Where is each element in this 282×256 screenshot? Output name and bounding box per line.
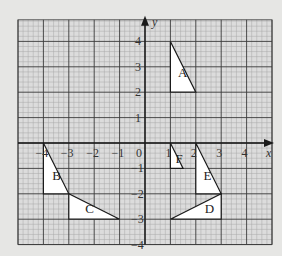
triangle-label-c: C [85, 201, 94, 216]
y-tick-label: 1 [135, 111, 141, 125]
y-tick-label: 4 [135, 34, 141, 48]
triangle-label-a: A [178, 65, 188, 80]
x-tick-label: −1 [112, 146, 125, 160]
triangle-label-e: E [203, 168, 211, 183]
x-tick-label: −2 [86, 146, 99, 160]
coordinate-grid-diagram: ABCDEFxy−4−3−2−112344321−1−2−3−40 [0, 0, 282, 256]
x-tick-label: 2 [191, 146, 197, 160]
x-axis-label: x [265, 146, 272, 160]
y-tick-label: −4 [131, 238, 144, 252]
grid-plot: ABCDEFxy−4−3−2−112344321−1−2−3−40 [0, 0, 282, 256]
x-tick-label: −3 [61, 146, 74, 160]
y-tick-label: −2 [131, 187, 144, 201]
x-tick-label: −4 [35, 146, 48, 160]
y-tick-label: −1 [131, 161, 144, 175]
y-tick-label: 3 [135, 60, 141, 74]
triangle-label-d: D [205, 201, 214, 216]
triangle-label-f: F [175, 151, 182, 166]
y-axis-label: y [151, 15, 158, 29]
x-tick-label: 1 [165, 146, 171, 160]
x-tick-label: 3 [216, 146, 222, 160]
y-tick-label: −3 [131, 212, 144, 226]
x-tick-label: 4 [242, 146, 248, 160]
y-tick-label: 2 [135, 85, 141, 99]
origin-label: 0 [136, 146, 142, 160]
triangle-label-b: B [52, 168, 61, 183]
